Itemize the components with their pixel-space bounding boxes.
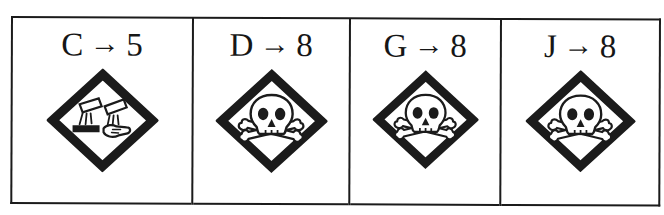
source-letter-4: J bbox=[544, 29, 557, 64]
source-letter-2: D bbox=[229, 28, 253, 63]
arrow-right-icon: → bbox=[414, 29, 445, 61]
mapping-table: C → 5 bbox=[10, 16, 661, 206]
source-letter-1: C bbox=[61, 27, 84, 62]
source-letter-3: G bbox=[383, 28, 407, 63]
pictogram-holder-2 bbox=[215, 68, 327, 172]
target-number-2: 8 bbox=[296, 28, 313, 63]
target-number-1: 5 bbox=[126, 27, 143, 62]
skull-and-crossbones-icon bbox=[525, 70, 635, 172]
skull-and-crossbones-icon bbox=[372, 69, 478, 169]
arrow-right-icon: → bbox=[563, 29, 594, 61]
table-cell-3: G → 8 bbox=[349, 18, 501, 205]
table-wrapper: C → 5 bbox=[10, 16, 655, 206]
pictogram-holder-3 bbox=[372, 69, 478, 169]
skull-and-crossbones-icon bbox=[215, 68, 327, 172]
corrosion-hazard-icon bbox=[46, 68, 158, 172]
pictogram-holder-1 bbox=[46, 68, 158, 172]
table-cell-4: J → 8 bbox=[500, 19, 660, 206]
pictogram-holder-4 bbox=[525, 70, 635, 172]
arrow-right-icon: → bbox=[90, 27, 121, 59]
arrow-right-icon: → bbox=[260, 28, 291, 60]
mapping-4: J → 8 bbox=[544, 29, 617, 64]
table-cell-2: D → 8 bbox=[192, 18, 350, 205]
target-number-4: 8 bbox=[600, 29, 617, 64]
table-row: C → 5 bbox=[11, 17, 660, 205]
mapping-3: G → 8 bbox=[383, 28, 467, 63]
table-cell-1: C → 5 bbox=[11, 17, 193, 204]
scanned-page: C → 5 bbox=[0, 0, 664, 215]
mapping-1: C → 5 bbox=[61, 27, 143, 62]
target-number-3: 8 bbox=[450, 29, 467, 64]
mapping-2: D → 8 bbox=[229, 28, 313, 63]
